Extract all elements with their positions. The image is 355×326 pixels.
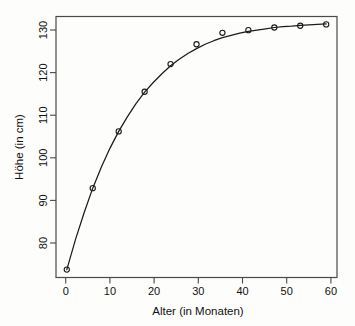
x-tick-label: 60: [325, 285, 337, 297]
y-axis-title: Höhe (in cm): [13, 114, 25, 180]
plot-frame: [56, 17, 337, 278]
y-tick-label: 100: [37, 149, 49, 167]
x-tick-label: 50: [281, 285, 293, 297]
fitted-curve: [67, 24, 326, 270]
y-tick-label: 110: [37, 106, 49, 124]
x-tick-label: 20: [148, 285, 160, 297]
y-tick-label: 130: [37, 21, 49, 39]
x-tick-label: 0: [63, 285, 69, 297]
y-axis-tick-labels: 130 120 110 100 90 80: [37, 21, 49, 249]
x-axis-title: Alter (in Monaten): [152, 305, 244, 317]
chart-figure: 130 120 110 100 90 80 Höhe (in cm) 0 10 …: [0, 0, 355, 326]
data-point: [194, 42, 199, 47]
y-tick-label: 120: [37, 63, 49, 81]
data-point-group: [64, 22, 329, 272]
y-tick-label: 80: [37, 237, 49, 249]
x-axis-ticks: [66, 278, 331, 284]
data-point: [220, 30, 225, 35]
x-axis-tick-labels: 0 10 20 30 40 50 60: [63, 285, 337, 297]
x-tick-label: 40: [236, 285, 248, 297]
y-axis-ticks: [50, 30, 56, 243]
plot-canvas: 130 120 110 100 90 80 Höhe (in cm) 0 10 …: [0, 0, 355, 326]
y-tick-label: 90: [37, 194, 49, 206]
x-tick-label: 10: [104, 285, 116, 297]
x-tick-label: 30: [192, 285, 204, 297]
